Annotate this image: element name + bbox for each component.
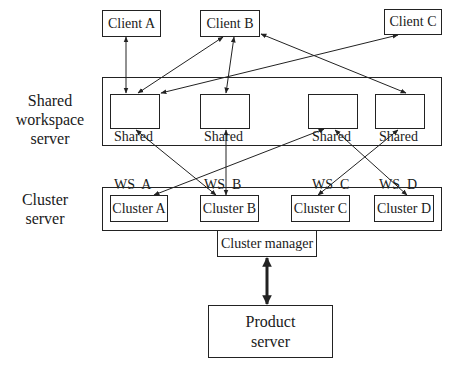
cluster-c-node[interactable]: Cluster C <box>291 195 350 222</box>
label-line: server <box>0 129 100 148</box>
architecture-diagram: Shared workspace server Cluster server C… <box>0 0 452 367</box>
client-a-node[interactable]: Client A <box>102 10 161 37</box>
product-line: server <box>251 332 290 352</box>
ws-line: Shared <box>204 129 249 145</box>
shared-workspace-server-label: Shared workspace server <box>0 91 100 148</box>
cluster-manager-node[interactable]: Cluster manager <box>217 230 317 257</box>
cluster-a-node[interactable]: Cluster A <box>110 195 168 222</box>
shared-ws-c-node[interactable]: Shared WS C <box>308 94 358 129</box>
label-line: Cluster <box>0 190 95 209</box>
client-c-node[interactable]: Client C <box>384 9 442 35</box>
label-line: server <box>0 209 95 228</box>
ws-line: Shared <box>114 129 159 145</box>
shared-ws-d-node[interactable]: Shared WS D <box>375 94 425 129</box>
cluster-d-node[interactable]: Cluster D <box>374 195 434 222</box>
product-server-node[interactable]: Product server <box>208 305 333 358</box>
shared-ws-a-node[interactable]: Shared WS A <box>110 94 160 129</box>
cluster-b-node[interactable]: Cluster B <box>200 195 259 222</box>
shared-ws-b-node[interactable]: Shared WS B <box>200 94 250 129</box>
label-line: Shared <box>0 91 100 110</box>
client-b-node[interactable]: Client B <box>200 10 260 37</box>
cluster-server-label: Cluster server <box>0 190 95 228</box>
product-line: Product <box>246 312 296 332</box>
label-line: workspace <box>0 110 100 129</box>
ws-line: Shared <box>379 129 424 145</box>
ws-line: Shared <box>312 129 357 145</box>
